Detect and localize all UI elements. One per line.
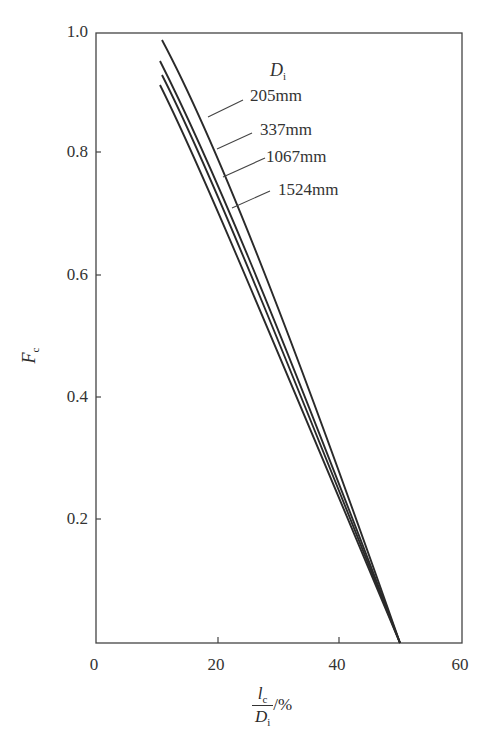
y-axis-label: Fc (19, 348, 40, 364)
x-tick-label-20: 20 (196, 655, 236, 675)
y-ticks (96, 152, 101, 519)
legend-label-1524mm: 1524mm (278, 180, 338, 200)
leader-lines (208, 100, 270, 208)
denominator-main: D (255, 707, 267, 726)
legend-title: Di (270, 60, 286, 81)
x-tick-label-40: 40 (317, 655, 357, 675)
x-ticks (218, 637, 339, 643)
y-tick-label-0.4: 0.4 (48, 387, 88, 407)
legend-title-sub: i (283, 70, 286, 82)
legend-label-205mm: 205mm (250, 86, 302, 106)
y-tick-label-0.2: 0.2 (48, 509, 88, 529)
legend-title-main: D (270, 60, 283, 80)
x-tick-label-60: 60 (440, 655, 480, 675)
curve-1524mm (160, 85, 400, 643)
numerator-main: l (258, 684, 263, 703)
denominator-sub: i (267, 716, 270, 728)
x-tick-label-0: 0 (74, 655, 114, 675)
x-axis-label-unit: /% (273, 695, 292, 714)
x-axis-label-denominator: Di (252, 706, 273, 729)
numerator-sub: c (263, 693, 268, 705)
y-tick-label-0.8: 0.8 (48, 142, 88, 162)
legend-label-337mm: 337mm (260, 120, 312, 140)
y-axis-label-main: F (19, 352, 39, 363)
y-tick-label-1.0: 1.0 (48, 22, 88, 42)
legend-label-1067mm: 1067mm (266, 147, 326, 167)
x-axis-label-fraction: lc Di (252, 684, 273, 729)
x-axis-label-numerator: lc (252, 684, 273, 706)
y-tick-label-0.6: 0.6 (48, 265, 88, 285)
x-axis-label: lc Di /% (252, 684, 292, 729)
y-axis-label-sub: c (29, 348, 41, 353)
chart-canvas (0, 0, 498, 754)
